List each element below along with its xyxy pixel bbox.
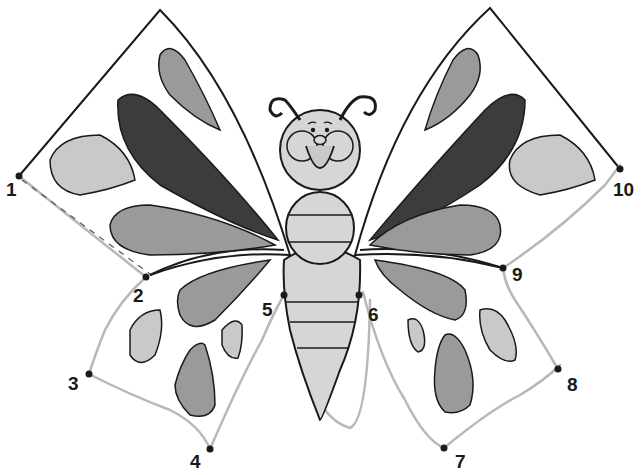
dot-label-6: 6 [368, 305, 379, 324]
butterfly-drawing [0, 0, 643, 475]
antenna-right [340, 97, 375, 120]
dot-label-10: 10 [613, 180, 634, 199]
wing-spot [480, 309, 517, 362]
dot-label-7: 7 [455, 452, 466, 471]
antenna-left [270, 99, 300, 120]
wing-spot [408, 319, 425, 352]
dot-label-9: 9 [512, 265, 523, 284]
dot-label-2: 2 [133, 286, 144, 305]
dot-label-8: 8 [567, 375, 578, 394]
wing-spot [175, 343, 215, 416]
dot-label-3: 3 [68, 374, 79, 393]
dot-label-1: 1 [6, 180, 17, 199]
dot-label-5: 5 [262, 300, 273, 319]
wing-spot [434, 334, 473, 413]
wing-spot [178, 260, 271, 326]
butterfly-thorax [286, 192, 354, 264]
dot-label-4: 4 [190, 452, 201, 471]
wing-spot [130, 310, 162, 363]
wing-spot [222, 321, 242, 358]
wing-spot [375, 260, 466, 320]
butterfly-abdomen [284, 248, 361, 421]
nose [314, 136, 326, 145]
